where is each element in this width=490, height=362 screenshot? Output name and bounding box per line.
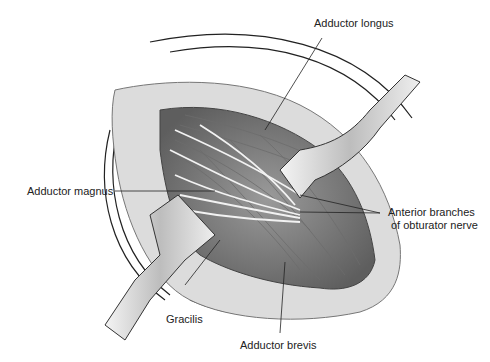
label-adductor-longus: Adductor longus xyxy=(314,17,394,30)
label-adductor-magnus: Adductor magnus xyxy=(27,185,113,198)
surgical-illustration xyxy=(0,0,490,362)
label-gracilis: Gracilis xyxy=(166,313,203,326)
label-anterior-branches-line1: Anterior branches xyxy=(388,206,475,219)
label-adductor-brevis: Adductor brevis xyxy=(240,339,316,352)
label-anterior-branches-line2: of obturator nerve xyxy=(391,219,478,232)
